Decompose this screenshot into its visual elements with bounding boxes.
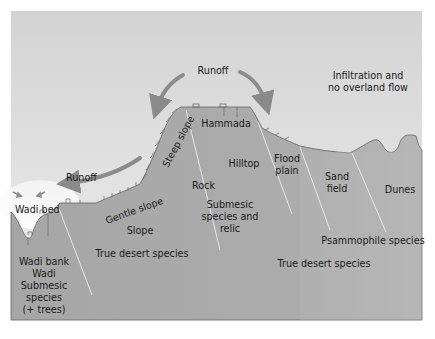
label-hilltop-species-and: species and (202, 211, 259, 222)
label-infiltration-line1: Infiltration and (333, 70, 404, 81)
label-hilltop-relic: relic (220, 223, 240, 234)
label-slope: Slope (127, 225, 154, 236)
label-wadi-species: species (26, 292, 62, 303)
label-hilltop-submesic: Submesic (207, 199, 253, 210)
label-sand-field-line1: Sand (325, 171, 349, 182)
label-runoff-left: Runoff (66, 172, 97, 183)
label-wadi-trees: (+ trees) (23, 304, 66, 315)
label-runoff-top: Runoff (198, 65, 229, 76)
label-wadi-bed: Wadi bed (15, 204, 60, 215)
label-wadi-submesic: Submesic (21, 280, 67, 291)
label-flood-plain-line1: Flood (274, 153, 300, 164)
label-rock: Rock (192, 180, 215, 191)
label-infiltration-line2: no overland flow (328, 82, 408, 93)
label-sand-field-line2: field (327, 183, 348, 194)
label-wadi-bank: Wadi bank (19, 256, 70, 267)
label-plain-true-desert-species: True desert species (277, 258, 371, 269)
desert-landscape-diagram: Runoff Runoff Infiltration and no overla… (0, 0, 435, 339)
label-dunes: Dunes (385, 184, 415, 195)
label-hammada: Hammada (201, 118, 251, 129)
label-slope-true-desert-species: True desert species (95, 248, 189, 259)
label-flood-plain-line2: plain (275, 165, 298, 176)
label-hilltop: Hilltop (229, 158, 260, 169)
label-wadi: Wadi (32, 268, 56, 279)
label-psammophile-species: Psammophile species (321, 235, 424, 246)
